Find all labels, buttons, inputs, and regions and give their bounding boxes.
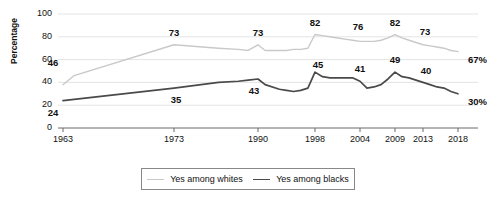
data-label-whites-1963: 46 bbox=[48, 57, 59, 68]
data-label-whites-1998: 82 bbox=[310, 17, 321, 28]
legend-item-blacks[interactable]: Yes among blacks bbox=[253, 174, 349, 184]
legend-label-blacks: Yes among blacks bbox=[276, 174, 349, 184]
data-label-whites-1990: 73 bbox=[253, 27, 264, 38]
legend-line-swatch-blacks bbox=[253, 179, 270, 180]
data-label-blacks-1963: 24 bbox=[48, 107, 59, 118]
data-label-whites-1973: 73 bbox=[169, 27, 180, 38]
data-label-blacks-2018: 30% bbox=[468, 96, 487, 107]
data-label-whites-2004: 76 bbox=[353, 21, 364, 32]
data-label-blacks-1998: 45 bbox=[313, 59, 324, 70]
legend-item-whites[interactable]: Yes among whites bbox=[147, 174, 243, 184]
data-label-blacks-2013: 40 bbox=[421, 65, 432, 76]
legend-label-whites: Yes among whites bbox=[170, 174, 243, 184]
data-label-whites-2009: 82 bbox=[390, 17, 401, 28]
data-label-whites-2018: 67% bbox=[468, 54, 487, 65]
legend-line-swatch-whites bbox=[147, 179, 164, 180]
chart-legend: Yes among whites Yes among blacks bbox=[141, 168, 355, 190]
data-label-whites-2013: 73 bbox=[420, 26, 431, 37]
series-line-blacks bbox=[63, 72, 458, 101]
data-label-blacks-2004: 41 bbox=[355, 63, 366, 74]
data-label-blacks-2009: 49 bbox=[390, 54, 401, 65]
data-label-blacks-1973: 35 bbox=[171, 94, 182, 105]
data-label-blacks-1990: 43 bbox=[249, 85, 260, 96]
